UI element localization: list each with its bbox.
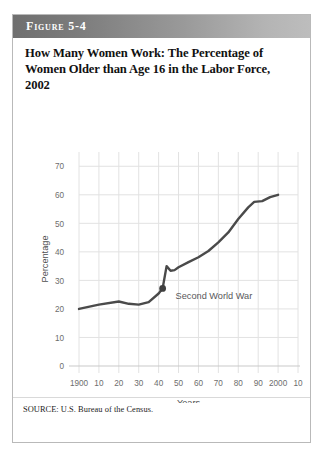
- x-tick-2000: 2000: [269, 379, 288, 388]
- x-tick-40: 40: [154, 379, 164, 388]
- y-tick-50: 50: [55, 220, 65, 229]
- y-axis-tick-labels: 010203040506070: [55, 162, 65, 371]
- x-axis-title: Years: [177, 398, 201, 403]
- x-tick-80: 80: [234, 379, 244, 388]
- second-world-war-marker: [159, 285, 166, 292]
- grid-lines: [79, 152, 298, 366]
- y-tick-40: 40: [55, 248, 65, 257]
- x-tick-90: 90: [254, 379, 264, 388]
- y-tick-70: 70: [55, 162, 65, 171]
- second-world-war-label: Second World War: [176, 291, 253, 301]
- x-tick-30: 30: [134, 379, 144, 388]
- source-note: SOURCE: U.S. Bureau of the Census.: [23, 405, 153, 414]
- x-tick-70: 70: [214, 379, 224, 388]
- figure-container: Figure 5-4 How Many Women Work: The Perc…: [12, 14, 311, 443]
- y-axis-title: Percentage: [40, 236, 50, 283]
- y-tick-30: 30: [55, 277, 65, 286]
- y-tick-60: 60: [55, 191, 65, 200]
- tick-marks: [79, 366, 298, 373]
- chart-area: 010203040506070 190010203040506070809020…: [13, 103, 310, 403]
- line-chart: 010203040506070 190010203040506070809020…: [13, 103, 310, 403]
- x-tick-50: 50: [174, 379, 184, 388]
- y-tick-10: 10: [55, 334, 65, 343]
- x-tick-10: 10: [293, 379, 303, 388]
- x-tick-10: 10: [94, 379, 104, 388]
- source-divider: [13, 397, 310, 398]
- x-tick-60: 60: [194, 379, 204, 388]
- y-tick-0: 0: [59, 362, 64, 371]
- figure-title: How Many Women Work: The Percentage of W…: [25, 45, 297, 94]
- figure-header-bar: Figure 5-4: [13, 15, 310, 38]
- x-axis-tick-labels: 1900102030405060708090200010: [70, 379, 303, 388]
- x-tick-1900: 1900: [70, 379, 89, 388]
- x-tick-20: 20: [114, 379, 124, 388]
- figure-number-label: Figure 5-4: [26, 19, 87, 34]
- y-tick-20: 20: [55, 305, 65, 314]
